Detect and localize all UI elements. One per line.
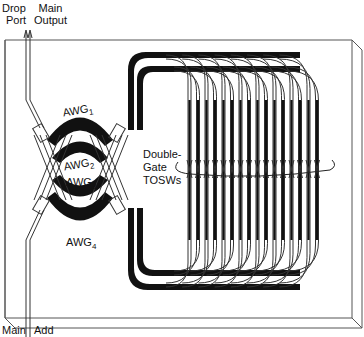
chip-diagram — [0, 0, 364, 337]
drop-port-label: Drop Port — [2, 2, 26, 26]
main-output-label: Main Output — [34, 2, 67, 26]
add-port-label: Add — [34, 324, 54, 336]
awg3-label: AWG3 — [66, 176, 96, 193]
main-input-label: Main — [2, 324, 26, 336]
tosw-label: Double- Gate TOSWs — [143, 148, 182, 187]
awg4-label: AWG4 — [66, 236, 96, 253]
